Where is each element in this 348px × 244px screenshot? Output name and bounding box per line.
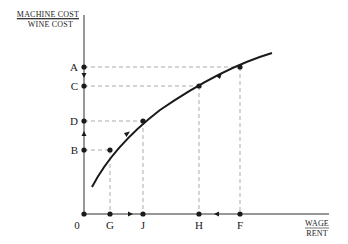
origin-point <box>81 211 86 216</box>
arrow-up-icon <box>82 131 87 136</box>
arrow-down-icon <box>82 73 87 78</box>
y-axis-title-numerator: MACHINE COST <box>17 10 79 19</box>
label-F: F <box>237 219 243 231</box>
point-C <box>81 83 86 88</box>
curve-point-JD <box>140 118 145 123</box>
y-axis-title-denominator: WINE COST <box>28 20 73 29</box>
point-B <box>81 147 86 152</box>
point-H <box>196 211 201 216</box>
label-J: J <box>141 219 146 231</box>
label-G: G <box>106 219 114 231</box>
movement-arrows <box>82 73 223 217</box>
curve-point-HC <box>196 83 201 88</box>
label-A: A <box>70 61 78 73</box>
arrow-right-icon <box>128 212 133 217</box>
point-D <box>81 118 86 123</box>
label-H: H <box>195 219 203 231</box>
curve-point-GB <box>107 147 112 152</box>
curve-point-FA <box>237 64 242 69</box>
point-G <box>107 211 112 216</box>
factor-price-diagram: MACHINE COST WINE COST WAGE RENT 0 A C D… <box>0 0 348 244</box>
label-B: B <box>71 144 78 156</box>
x-axis-title-numerator: WAGE <box>305 219 329 228</box>
isocost-curve <box>92 53 272 187</box>
origin-label: 0 <box>74 219 80 231</box>
point-F <box>237 211 242 216</box>
label-C: C <box>71 80 78 92</box>
x-axis-title-denominator: RENT <box>306 229 328 238</box>
arrow-left-icon <box>214 212 219 217</box>
point-A <box>81 64 86 69</box>
point-J <box>140 211 145 216</box>
label-D: D <box>70 115 78 127</box>
vertical-guides <box>110 67 240 214</box>
